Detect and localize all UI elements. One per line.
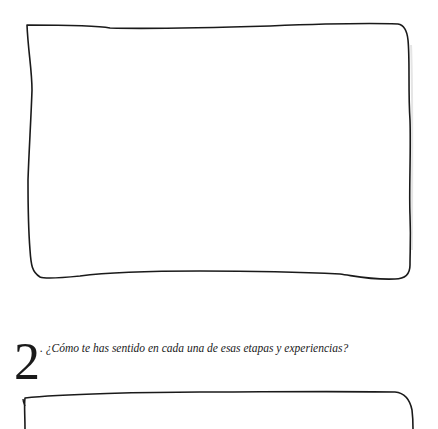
answer-box-1[interactable] [0, 0, 438, 300]
answer-box-2[interactable] [0, 380, 438, 429]
hand-drawn-box-outline [0, 0, 438, 300]
hand-drawn-box-outline [0, 380, 438, 429]
question-text: . ¿Cómo te has sentido en cada una de es… [40, 342, 348, 354]
